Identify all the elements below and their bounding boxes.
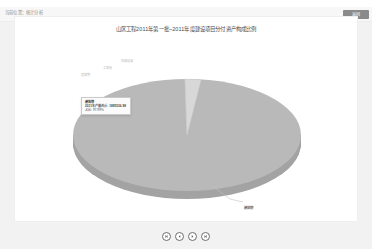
first-page-button[interactable] xyxy=(162,232,171,241)
first-icon xyxy=(164,234,169,239)
prev-icon xyxy=(177,234,182,239)
chart-card: 山区工程2011年第一批~2011年度建设项目分付资产构成比例 xyxy=(14,16,358,222)
pie-chart[interactable]: 机械设备 工器具 建筑物 建筑物 建筑物 2011年产值合计: 1895536.… xyxy=(15,35,359,223)
pie-label-machinery: 机械设备 xyxy=(121,59,133,63)
pie-label-building-small: 建筑物 xyxy=(81,73,90,77)
prev-page-button[interactable] xyxy=(175,232,184,241)
pagination xyxy=(0,228,372,244)
last-page-button[interactable] xyxy=(201,232,210,241)
chart-title: 山区工程2011年第一批~2011年度建设项目分付资产构成比例 xyxy=(15,25,357,33)
last-icon xyxy=(203,234,208,239)
tooltip-percent: 占比: 97.99% xyxy=(85,108,127,112)
chart-tooltip: 建筑物 2011年产值合计: 1895536.98 占比: 97.99% xyxy=(81,97,131,115)
pie-label-tools: 工器具 xyxy=(103,66,112,70)
pie-callout-label: 建筑物 xyxy=(244,206,253,211)
top-strip xyxy=(0,0,372,7)
next-icon xyxy=(190,234,195,239)
next-page-button[interactable] xyxy=(188,232,197,241)
pie-chart-svg xyxy=(15,35,359,223)
